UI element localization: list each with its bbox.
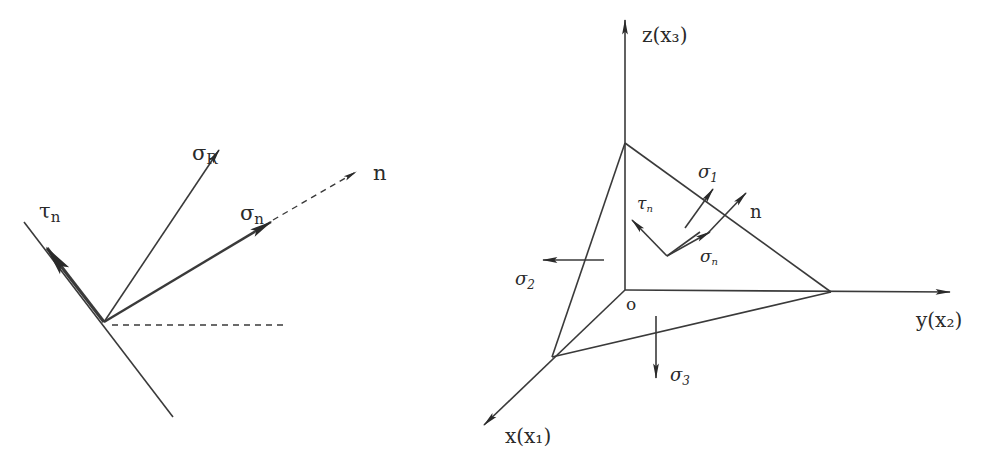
left-diagram: τn σR σn n xyxy=(24,141,387,417)
y-axis xyxy=(625,290,950,292)
origin-label: o xyxy=(626,294,636,314)
label-normal-n-right: n xyxy=(750,201,762,222)
tetra-edge-xy xyxy=(552,292,831,357)
label-sigma-n: σn xyxy=(240,201,264,228)
label-sigma-2: σ2 xyxy=(515,268,535,292)
tetra-edge-zy xyxy=(625,143,831,292)
label-tau-n: τn xyxy=(39,199,61,226)
label-sigma-1: σ1 xyxy=(698,161,718,185)
sigma-1-arrow xyxy=(685,189,713,228)
label-normal-n: n xyxy=(373,161,387,185)
label-tau-n-right: τn xyxy=(637,193,653,214)
sigma-r-arrow xyxy=(104,150,219,322)
sigma-n-arrow xyxy=(104,222,271,322)
tau-n-arrow-right xyxy=(632,220,667,256)
z-axis-label: z(x₃) xyxy=(642,23,687,47)
x-axis xyxy=(484,290,625,425)
stress-diagram-canvas: τn σR σn n z(x₃) y(x₂) xyxy=(0,0,984,457)
tau-n-arrow xyxy=(47,248,104,322)
normal-direction-dashed xyxy=(273,172,356,220)
x-axis-label: x(x₁) xyxy=(505,424,551,448)
label-sigma-n-right: σn xyxy=(700,246,718,267)
y-axis-label: y(x₂) xyxy=(915,308,962,332)
label-sigma-3: σ3 xyxy=(670,364,690,388)
label-sigma-r: σR xyxy=(192,141,218,168)
right-diagram: z(x₃) y(x₂) x(x₁) o σ1 σ2 σ3 τn σn n xyxy=(484,20,962,448)
